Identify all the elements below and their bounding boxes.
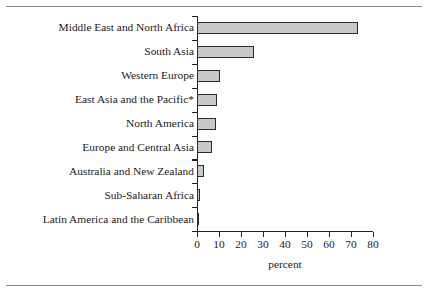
bar	[197, 141, 212, 153]
x-axis-tick	[373, 232, 374, 237]
bar-row	[197, 183, 200, 207]
bar	[197, 94, 217, 106]
bar	[197, 213, 199, 225]
x-axis-tick-label: 10	[207, 238, 231, 251]
category-label: South Asia	[144, 45, 194, 57]
figure-container: Middle East and North AfricaSouth AsiaWe…	[0, 0, 428, 296]
bar-chart-plot-area: Middle East and North AfricaSouth AsiaWe…	[0, 0, 428, 296]
bar-row	[197, 112, 216, 136]
bar-row	[197, 136, 212, 160]
category-label: Middle East and North Africa	[59, 21, 194, 33]
x-axis-tick-label: 30	[251, 238, 275, 251]
x-axis-tick	[307, 232, 308, 237]
bar-row	[197, 207, 199, 231]
bar-row	[197, 88, 217, 112]
category-label: Latin America and the Caribbean	[43, 213, 194, 225]
bar-row	[197, 40, 254, 64]
bar-row	[197, 64, 220, 88]
bar	[197, 70, 220, 82]
category-label: North America	[126, 117, 194, 129]
category-label: Europe and Central Asia	[82, 141, 194, 153]
x-axis-tick-label: 0	[185, 238, 209, 251]
x-axis-tick	[219, 232, 220, 237]
x-axis-tick	[329, 232, 330, 237]
x-axis-tick-label: 50	[295, 238, 319, 251]
x-axis-tick	[197, 232, 198, 237]
x-axis-tick-label: 60	[317, 238, 341, 251]
category-label: Sub-Saharan Africa	[104, 189, 194, 201]
category-label: Western Europe	[121, 69, 194, 81]
x-axis-tick-label: 20	[229, 238, 253, 251]
bar	[197, 165, 204, 177]
category-label: East Asia and the Pacific*	[75, 93, 194, 105]
x-axis-tick	[241, 232, 242, 237]
bar	[197, 189, 200, 201]
x-axis-tick-label: 40	[273, 238, 297, 251]
bar	[197, 118, 216, 130]
x-axis-tick	[285, 232, 286, 237]
x-axis-title: percent	[197, 258, 373, 270]
bar	[197, 22, 358, 34]
x-axis-tick-label: 80	[361, 238, 385, 251]
x-axis-tick-label: 70	[339, 238, 363, 251]
bar-row	[197, 16, 358, 40]
bar-row	[197, 159, 204, 183]
category-label: Australia and New Zealand	[69, 165, 194, 177]
x-axis-tick	[351, 232, 352, 237]
x-axis-tick	[263, 232, 264, 237]
bar	[197, 46, 254, 58]
